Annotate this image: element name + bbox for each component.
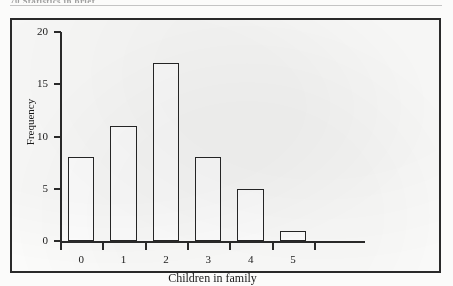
bar — [110, 126, 136, 241]
x-axis-line — [60, 241, 365, 243]
y-tick-label: 20 — [26, 26, 48, 37]
x-axis-title: Children in family — [60, 271, 365, 286]
x-tick-label: 2 — [151, 253, 181, 265]
bar-chart-plot: Frequency 05101520 012345 Children in fa… — [12, 20, 439, 271]
y-tick-label: 10 — [26, 131, 48, 142]
figure-frame: Frequency 05101520 012345 Children in fa… — [10, 18, 441, 273]
x-tick-mark — [102, 243, 104, 250]
bar — [195, 157, 221, 241]
y-axis-line — [60, 32, 62, 243]
y-tick-label: 5 — [26, 183, 48, 194]
y-tick-mark — [54, 240, 61, 242]
bar — [280, 231, 306, 241]
x-tick-label: 1 — [109, 253, 139, 265]
x-tick-label: 3 — [193, 253, 223, 265]
y-tick-mark — [54, 188, 61, 190]
y-tick-mark — [54, 136, 61, 138]
x-tick-mark — [229, 243, 231, 250]
page-running-head: 70 Statistics in brief — [10, 0, 95, 3]
y-tick-mark — [54, 83, 61, 85]
x-tick-mark — [60, 243, 62, 250]
x-tick-mark — [272, 243, 274, 250]
y-tick-label: 0 — [26, 235, 48, 246]
x-tick-label: 0 — [66, 253, 96, 265]
bar — [68, 157, 94, 241]
bar — [237, 189, 263, 241]
x-tick-mark — [187, 243, 189, 250]
x-tick-label: 5 — [278, 253, 308, 265]
y-tick-mark — [54, 31, 61, 33]
header-rule — [10, 5, 442, 6]
bar — [153, 63, 179, 241]
y-tick-label: 15 — [26, 78, 48, 89]
x-tick-label: 4 — [236, 253, 266, 265]
y-axis-title: Frequency — [24, 82, 36, 162]
x-tick-mark — [145, 243, 147, 250]
x-tick-mark — [314, 243, 316, 250]
